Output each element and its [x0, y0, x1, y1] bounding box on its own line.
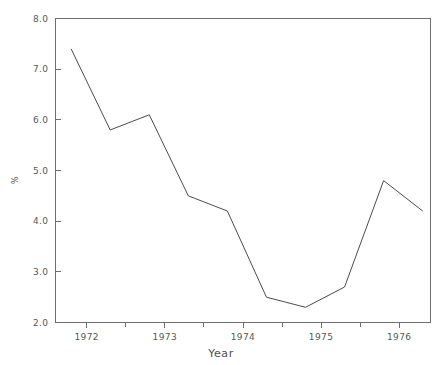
line-chart-plot: 19721973197419751976 2.03.04.05.06.07.08… [0, 0, 443, 365]
x-tick-label: 1975 [309, 332, 334, 342]
y-tick-label: 2.0 [33, 318, 49, 328]
y-tick-label: 4.0 [33, 216, 49, 226]
y-tick-label: 7.0 [33, 64, 49, 74]
axes-frame [56, 19, 431, 323]
x-tick-label: 1974 [231, 332, 256, 342]
x-axis-title: Year [207, 347, 234, 360]
data-series-line [71, 49, 423, 307]
data-series-group [71, 49, 423, 307]
y-axis-ticks [56, 19, 61, 323]
y-tick-label: 8.0 [33, 14, 49, 24]
x-tick-label: 1972 [74, 332, 99, 342]
x-tick-label: 1976 [387, 332, 412, 342]
y-tick-label: 6.0 [33, 115, 49, 125]
y-tick-label: 3.0 [33, 267, 49, 277]
x-axis-tick-labels: 19721973197419751976 [74, 332, 411, 342]
x-axis-ticks [87, 323, 400, 328]
y-axis-title: % [11, 176, 20, 184]
y-tick-label: 5.0 [33, 166, 49, 176]
y-axis-tick-labels: 2.03.04.05.06.07.08.0 [33, 14, 49, 328]
x-tick-label: 1973 [153, 332, 178, 342]
chart-figure: 19721973197419751976 2.03.04.05.06.07.08… [0, 0, 443, 365]
